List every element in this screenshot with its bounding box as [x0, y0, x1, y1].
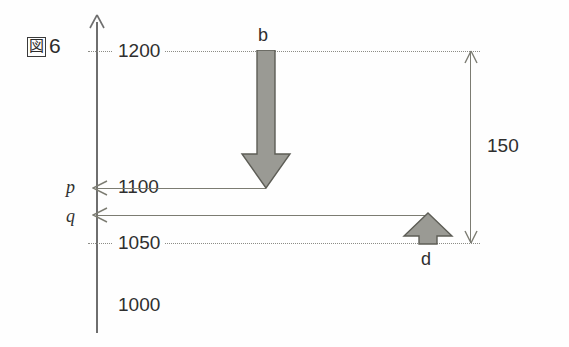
dimension-arrowhead-top [463, 50, 479, 64]
dimension-line-150 [470, 51, 471, 243]
figure-label: 図6 [27, 34, 61, 59]
vertical-axis-arrowhead [88, 14, 106, 30]
leader-arrowhead-p [92, 179, 108, 197]
block-arrow-d-up-icon [402, 212, 454, 245]
figure-label-boxed-char: 図 [27, 37, 46, 57]
leader-arrowhead-q [92, 206, 108, 224]
dimension-label-150: 150 [487, 135, 519, 157]
tick-label-1200: 1200 [113, 40, 165, 62]
block-arrow-d-label: d [421, 249, 431, 270]
block-arrow-b-down-icon [240, 50, 292, 190]
figure-canvas: 図6 1200 1100 1050 1000 p q b d 150 [0, 0, 569, 347]
tick-label-1050: 1050 [113, 232, 165, 254]
block-arrow-b-label: b [258, 25, 268, 46]
level-label-p: p [66, 177, 75, 198]
tick-label-1000: 1000 [113, 294, 165, 316]
figure-label-number: 6 [49, 34, 61, 57]
level-label-q: q [66, 206, 75, 227]
tick-label-1100: 1100 [113, 176, 164, 198]
vertical-axis-line [96, 22, 98, 333]
dimension-arrowhead-bottom [463, 230, 479, 244]
leader-line-q [96, 215, 428, 216]
